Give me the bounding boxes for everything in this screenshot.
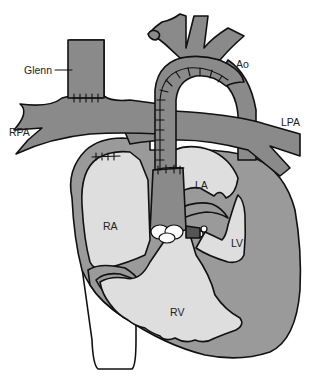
label-lpa: LPA bbox=[281, 117, 300, 128]
label-glenn: Glenn bbox=[24, 65, 52, 76]
glenn-svc bbox=[68, 40, 104, 98]
label-lv: LV bbox=[231, 238, 243, 249]
label-ao: Ao bbox=[236, 59, 249, 70]
right-atrium bbox=[82, 152, 150, 270]
diagram-canvas bbox=[0, 0, 310, 379]
valve-connector bbox=[186, 226, 200, 238]
label-ra: RA bbox=[103, 221, 118, 232]
ligation-knot bbox=[148, 30, 160, 40]
label-rpa: RPA bbox=[9, 127, 30, 138]
label-la: LA bbox=[195, 180, 208, 191]
arch-branches bbox=[150, 14, 244, 60]
label-rv: RV bbox=[170, 307, 184, 318]
conduit-tube bbox=[150, 168, 186, 232]
heart-diagram: Glenn Ao RPA LPA LA RA LV RV bbox=[0, 0, 310, 379]
